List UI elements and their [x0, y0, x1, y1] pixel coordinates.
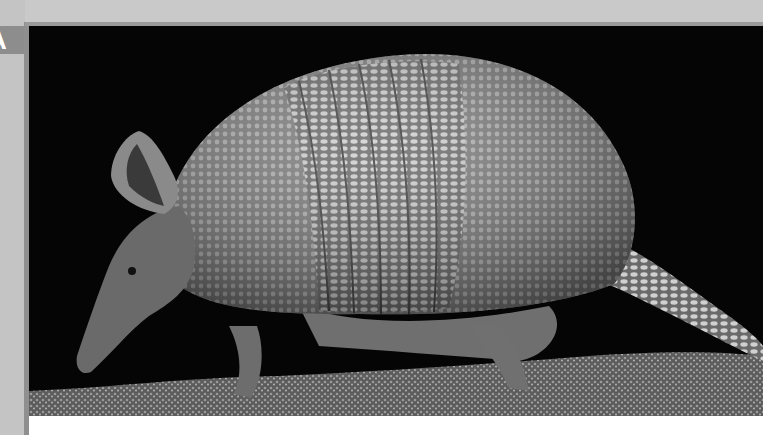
page-side-strip [0, 0, 25, 435]
page-body [29, 416, 763, 435]
index-tab-letter: A [0, 26, 7, 54]
mossy-log [29, 352, 763, 416]
armadillo-photo [29, 26, 763, 416]
armadillo-eye [128, 267, 136, 275]
armadillo-head [77, 206, 195, 373]
armadillo-belly-fur [299, 306, 557, 361]
index-tab[interactable]: A [0, 26, 24, 54]
armadillo-illustration [29, 26, 763, 416]
